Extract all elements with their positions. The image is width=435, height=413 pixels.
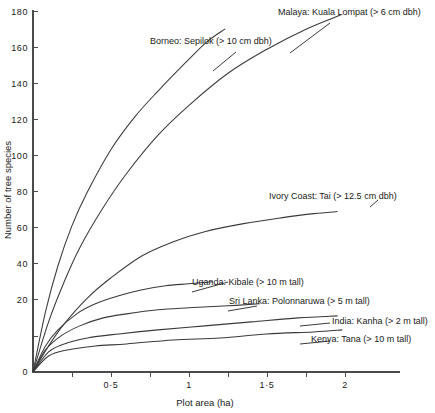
series-label-india: India: Kanha (> 2 m tall) <box>332 316 428 326</box>
y-tick-label-40: 40 <box>17 259 28 269</box>
series-label-malaya: Malaya: Kuala Lompat (> 6 cm dbh) <box>278 7 421 17</box>
leader-line-borneo <box>213 52 236 71</box>
leader-line-srilanka <box>228 306 257 311</box>
x-axis-ticks <box>72 372 345 377</box>
series-label-uganda: Uganda: Kibale (> 10 m tall) <box>192 277 304 287</box>
curve-kenya <box>33 330 342 372</box>
leader-line-india <box>300 323 330 326</box>
species-area-chart: 180 160 140 120 100 80 60 40 20 0 0·5 1 <box>0 0 435 413</box>
y-axis-tick-labels: 180 160 140 120 100 80 60 40 20 0 <box>11 7 28 378</box>
chart-figure: 180 160 140 120 100 80 60 40 20 0 0·5 1 <box>0 0 435 413</box>
y-tick-label-180: 180 <box>11 7 28 17</box>
series-label-kenya: Kenya: Tana (> 10 m tall) <box>311 334 411 344</box>
leader-line-ivory <box>370 200 378 207</box>
y-tick-label-60: 60 <box>17 223 28 233</box>
x-tick-label-2: 2 <box>342 380 348 390</box>
y-tick-label-120: 120 <box>11 115 28 125</box>
series-label-ivory: Ivory Coast: Tai (> 12.5 cm dbh) <box>269 191 397 201</box>
y-tick-label-80: 80 <box>17 187 28 197</box>
y-tick-label-20: 20 <box>17 295 28 305</box>
y-tick-label-0: 0 <box>22 367 28 377</box>
curve-borneo <box>33 29 225 372</box>
y-axis-title: Number of tree species <box>2 141 13 239</box>
x-tick-label-15: 1·5 <box>260 380 275 390</box>
series-labels-group: Malaya: Kuala Lompat (> 6 cm dbh) Borneo… <box>150 7 428 344</box>
x-axis-title: Plot area (ha) <box>176 397 234 408</box>
y-tick-label-140: 140 <box>11 79 28 89</box>
y-tick-label-100: 100 <box>11 151 28 161</box>
series-label-borneo: Borneo: Sepilok (> 10 cm dbh) <box>150 36 272 46</box>
y-axis-ticks <box>33 11 38 336</box>
x-tick-label-05: 0·5 <box>104 380 119 390</box>
curve-india <box>33 316 337 372</box>
series-label-srilanka: Sri Lanka: Polonnaruwa (> 5 m tall) <box>229 296 370 306</box>
x-axis-tick-labels: 0·5 1 1·5 2 <box>104 380 348 390</box>
curve-uganda <box>33 282 212 372</box>
x-tick-label-1: 1 <box>186 380 192 390</box>
y-tick-label-160: 160 <box>11 43 28 53</box>
